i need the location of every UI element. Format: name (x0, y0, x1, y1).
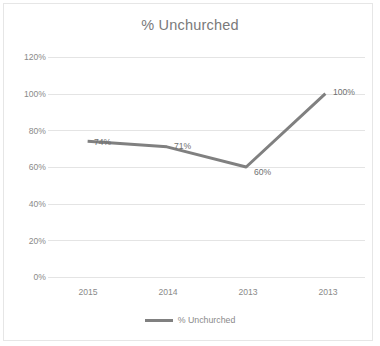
y-axis-tick-label: 60% (6, 162, 46, 172)
y-axis-tick-label: 80% (6, 126, 46, 136)
data-label: 60% (254, 167, 271, 177)
data-label: 74% (94, 137, 111, 147)
chart-container: % Unchurched 120% 100% 80% 60% 40% 20% 0… (0, 0, 380, 346)
y-axis-tick-label: 100% (6, 89, 46, 99)
plot-area: 74% 71% 60% 100% (48, 57, 365, 277)
x-axis-tick-label: 2013 (218, 287, 278, 297)
x-axis-tick-label: 2015 (58, 287, 118, 297)
chart-legend: % Unchurched (0, 315, 380, 325)
y-axis-tick-label: 0% (6, 272, 46, 282)
y-axis-tick-label: 120% (6, 52, 46, 62)
series-line-unchurched (48, 57, 365, 277)
data-label: 100% (333, 87, 355, 97)
chart-title: % Unchurched (0, 17, 380, 33)
data-label: 71% (174, 141, 191, 151)
gridline (48, 277, 365, 278)
y-axis-tick-label: 40% (6, 199, 46, 209)
x-axis-tick-label: 2014 (138, 287, 198, 297)
y-axis-tick-label: 20% (6, 236, 46, 246)
legend-item-label: % Unchurched (178, 315, 236, 325)
legend-line-swatch-icon (145, 319, 173, 322)
x-axis-tick-label: 2013 (298, 287, 358, 297)
